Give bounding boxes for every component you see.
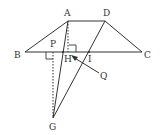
label-C: C	[144, 50, 151, 60]
point-H	[62, 51, 64, 53]
right-angle-H	[69, 45, 76, 52]
label-Q: Q	[100, 71, 107, 81]
arrow-Q-H	[73, 57, 99, 73]
segment-DC	[105, 21, 142, 52]
point-I	[88, 51, 90, 53]
label-H: H	[64, 54, 72, 64]
label-P: P	[50, 39, 56, 49]
right-angle-P	[46, 52, 53, 59]
label-D: D	[103, 8, 110, 18]
label-B: B	[14, 50, 21, 60]
label-G: G	[49, 122, 56, 132]
geometry-diagram: A D B C P H I G Q	[0, 0, 162, 135]
label-I: I	[88, 54, 92, 64]
arrowhead-icon	[71, 55, 78, 61]
segment-AB	[25, 21, 68, 52]
label-A: A	[63, 8, 71, 18]
